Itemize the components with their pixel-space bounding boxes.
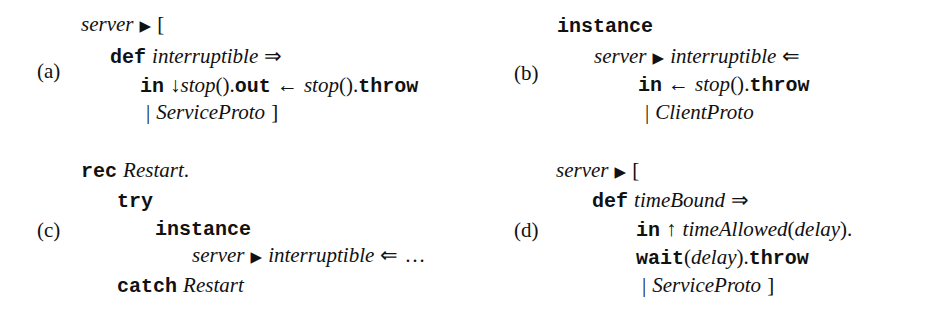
arrow-down-icon: ↓ bbox=[170, 73, 181, 97]
identifier: delay bbox=[691, 245, 736, 269]
identifier: server bbox=[594, 44, 646, 68]
keyword: catch bbox=[117, 275, 177, 298]
keyword: in bbox=[638, 74, 662, 97]
paren: ( bbox=[684, 245, 691, 269]
keyword: wait bbox=[636, 247, 684, 270]
code-line: def timeBound ⇒ bbox=[592, 189, 749, 213]
identifier: stop bbox=[695, 72, 730, 96]
paren: ) bbox=[737, 245, 744, 269]
identifier: ServiceProto bbox=[156, 100, 265, 124]
double-arrow-right-icon: ⇒ bbox=[264, 44, 282, 68]
parens: () bbox=[216, 73, 230, 97]
code-line: in ↓stop().out ← stop().throw bbox=[140, 74, 418, 98]
identifier: ServiceProto bbox=[652, 273, 761, 297]
panel-label-a: (a) bbox=[37, 59, 60, 84]
panel-label-c: (c) bbox=[37, 218, 60, 243]
panel-label-b: (b) bbox=[514, 61, 539, 86]
identifier: server bbox=[556, 158, 608, 182]
bar: | bbox=[645, 100, 649, 124]
identifier: timeAllowed bbox=[683, 217, 788, 241]
identifier: interruptible bbox=[152, 44, 258, 68]
code-line: instance bbox=[155, 217, 251, 241]
arrow-left-icon: ← bbox=[277, 73, 298, 97]
code-line: instance bbox=[557, 14, 653, 38]
identifier: Restart bbox=[183, 273, 244, 297]
triangle-operator-icon: ▶ bbox=[615, 163, 627, 181]
keyword: throw bbox=[358, 75, 418, 98]
keyword: in bbox=[140, 75, 164, 98]
parens: () bbox=[339, 73, 353, 97]
code-line: rec Restart. bbox=[81, 159, 189, 183]
double-arrow-left-icon: ⇐ bbox=[782, 44, 800, 68]
dot: . bbox=[184, 158, 189, 182]
code-line: wait(delay).throw bbox=[636, 246, 809, 270]
keyword: def bbox=[110, 46, 146, 69]
identifier: stop bbox=[304, 73, 339, 97]
triangle-operator-icon: ▶ bbox=[140, 17, 152, 35]
keyword: def bbox=[592, 190, 628, 213]
bar: | bbox=[642, 273, 646, 297]
close-bracket: ] bbox=[271, 100, 278, 124]
code-line: catch Restart bbox=[117, 274, 244, 298]
identifier: timeBound bbox=[634, 188, 725, 212]
keyword: instance bbox=[155, 218, 251, 241]
code-line: server ▶ [ bbox=[81, 13, 164, 37]
double-arrow-right-icon: ⇒ bbox=[731, 188, 749, 212]
code-line: server ▶ interruptible ⇐ … bbox=[192, 244, 425, 268]
code-line: def interruptible ⇒ bbox=[110, 45, 282, 69]
identifier: server bbox=[81, 12, 133, 36]
keyword: throw bbox=[749, 247, 809, 270]
identifier: Restart bbox=[123, 158, 184, 182]
code-line: | ClientProto bbox=[645, 101, 754, 123]
keyword: out bbox=[235, 75, 271, 98]
identifier: server bbox=[192, 243, 244, 267]
dot: . bbox=[847, 217, 852, 241]
triangle-operator-icon: ▶ bbox=[251, 248, 263, 266]
code-line: server ▶ interruptible ⇐ bbox=[594, 45, 800, 69]
ellipsis: … bbox=[404, 243, 425, 267]
code-line: server ▶ [ bbox=[556, 159, 639, 183]
parens: () bbox=[730, 72, 744, 96]
paren: ( bbox=[788, 217, 795, 241]
keyword: rec bbox=[81, 160, 117, 183]
open-bracket: [ bbox=[157, 12, 164, 36]
identifier: interruptible bbox=[670, 44, 776, 68]
bar: | bbox=[146, 100, 150, 124]
keyword: try bbox=[117, 190, 153, 213]
identifier: delay bbox=[795, 217, 840, 241]
open-bracket: [ bbox=[632, 158, 639, 182]
identifier: ClientProto bbox=[655, 100, 753, 124]
close-bracket: ] bbox=[767, 273, 774, 297]
arrow-up-icon: ↑ bbox=[666, 217, 677, 241]
keyword: in bbox=[636, 219, 660, 242]
double-arrow-left-icon: ⇐ bbox=[380, 243, 398, 267]
triangle-operator-icon: ▶ bbox=[653, 49, 665, 67]
code-line: in ↑ timeAllowed(delay). bbox=[636, 218, 852, 242]
identifier: stop bbox=[181, 73, 216, 97]
code-line: | ServiceProto ] bbox=[642, 274, 774, 296]
code-line: in ← stop().throw bbox=[638, 73, 809, 97]
keyword: instance bbox=[557, 15, 653, 38]
code-line: | ServiceProto ] bbox=[146, 101, 278, 123]
panel-label-d: (d) bbox=[514, 218, 539, 243]
arrow-left-icon: ← bbox=[668, 72, 689, 96]
identifier: interruptible bbox=[268, 243, 374, 267]
keyword: throw bbox=[749, 74, 809, 97]
code-line: try bbox=[117, 189, 153, 213]
